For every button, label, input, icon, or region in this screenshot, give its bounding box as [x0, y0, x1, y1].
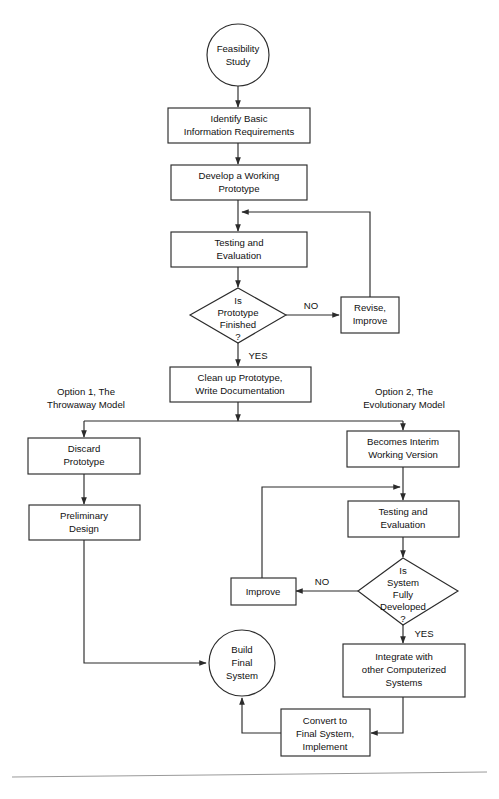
- is-system-fully-developed-label-line2: System: [387, 577, 419, 588]
- discard-prototype-label-line2: Prototype: [63, 456, 104, 467]
- build-final-system-label-line2: Final: [232, 657, 253, 668]
- node-build-final-system[interactable]: Build Final System: [209, 630, 275, 696]
- revise-improve-label-line1: Revise,: [354, 302, 386, 313]
- integrate-label-line3: Systems: [386, 677, 423, 688]
- is-system-fully-developed-label-line5: ?: [400, 613, 405, 624]
- connector-preliminary-to-build: [84, 540, 206, 663]
- flowchart-diagram: Feasibility Study Identify Basic Informa…: [0, 0, 499, 799]
- is-prototype-finished-label-line4: ?: [235, 331, 240, 342]
- node-integrate-with-other-computerized-systems[interactable]: Integrate with other Computerized System…: [343, 644, 465, 697]
- testing-evaluation-2-label-line2: Evaluation: [381, 519, 426, 530]
- develop-prototype-label-line2: Prototype: [218, 183, 259, 194]
- node-improve[interactable]: Improve: [231, 578, 296, 605]
- identify-basic-label-line1: Identify Basic: [210, 113, 267, 124]
- identify-basic-label-line2: Information Requirements: [184, 126, 295, 137]
- edge-label-no-2: NO: [315, 576, 329, 587]
- convert-to-final-label-line1: Convert to: [303, 715, 347, 726]
- clean-up-prototype-label-line2: Write Documentation: [195, 385, 284, 396]
- discard-prototype-label-line1: Discard: [68, 443, 101, 454]
- testing-evaluation-2-label-line1: Testing and: [378, 506, 427, 517]
- node-testing-and-evaluation-2[interactable]: Testing and Evaluation: [348, 501, 459, 537]
- revise-improve-label-line2: Improve: [353, 315, 388, 326]
- node-clean-up-prototype[interactable]: Clean up Prototype, Write Documentation: [170, 367, 311, 402]
- option-2-label-line2: Evolutionary Model: [363, 399, 445, 410]
- build-final-system-label-line1: Build: [231, 644, 252, 655]
- is-prototype-finished-label-line2: Prototype: [217, 307, 258, 318]
- node-decision-is-prototype-finished[interactable]: Is Prototype Finished ?: [190, 288, 286, 343]
- is-prototype-finished-label-line3: Finished: [220, 319, 256, 330]
- option-1-label-line1: Option 1, The: [57, 386, 115, 397]
- becomes-interim-label-line1: Becomes Interim: [367, 436, 439, 447]
- convert-to-final-label-line2: Final System,: [296, 728, 354, 739]
- connector-integrate-to-convert: [371, 697, 403, 733]
- node-becomes-interim-working-version[interactable]: Becomes Interim Working Version: [347, 431, 459, 467]
- node-preliminary-design[interactable]: Preliminary Design: [29, 505, 140, 540]
- node-develop-working-prototype[interactable]: Develop a Working Prototype: [171, 165, 307, 200]
- integrate-label-line2: other Computerized: [362, 664, 446, 675]
- feasibility-study-label-line2: Study: [226, 56, 251, 67]
- page-footer-rule: [12, 772, 487, 777]
- is-system-fully-developed-label-line3: Fully: [393, 589, 413, 600]
- edge-label-yes-2: YES: [414, 628, 433, 639]
- node-convert-to-final-system[interactable]: Convert to Final System, Implement: [281, 709, 370, 756]
- branch-label-option-2: Option 2, The Evolutionary Model: [363, 386, 445, 410]
- node-identify-basic-information-requirements[interactable]: Identify Basic Information Requirements: [168, 108, 310, 143]
- convert-to-final-label-line3: Implement: [303, 741, 348, 752]
- preliminary-design-label-line2: Design: [69, 523, 99, 534]
- build-final-system-label-line3: System: [226, 670, 258, 681]
- testing-evaluation-1-label-line1: Testing and: [214, 237, 263, 248]
- integrate-label-line1: Integrate with: [375, 651, 433, 662]
- edge-label-no-1: NO: [304, 300, 318, 311]
- option-1-label-line2: Throwaway Model: [47, 399, 125, 410]
- becomes-interim-label-line2: Working Version: [368, 449, 438, 460]
- is-system-fully-developed-label-line1: Is: [399, 565, 407, 576]
- node-feasibility-study[interactable]: Feasibility Study: [207, 24, 269, 86]
- option-2-label-line1: Option 2, The: [375, 386, 433, 397]
- testing-evaluation-1-label-line2: Evaluation: [217, 250, 262, 261]
- improve-label: Improve: [246, 586, 281, 597]
- node-decision-is-system-fully-developed[interactable]: Is System Fully Developed ?: [358, 558, 458, 625]
- is-prototype-finished-label-line1: Is: [234, 295, 242, 306]
- is-system-fully-developed-label-line4: Developed: [380, 601, 426, 612]
- preliminary-design-label-line1: Preliminary: [60, 510, 108, 521]
- node-revise-improve[interactable]: Revise, Improve: [341, 297, 399, 333]
- node-testing-and-evaluation-1[interactable]: Testing and Evaluation: [171, 232, 307, 267]
- node-discard-prototype[interactable]: Discard Prototype: [28, 438, 140, 474]
- feasibility-study-label-line1: Feasibility: [217, 43, 260, 54]
- develop-prototype-label-line1: Develop a Working: [199, 170, 280, 181]
- edge-label-yes-1: YES: [248, 350, 267, 361]
- connector-convert-to-build: [242, 698, 282, 733]
- flowchart-canvas: Feasibility Study Identify Basic Informa…: [0, 0, 499, 799]
- clean-up-prototype-label-line1: Clean up Prototype,: [198, 372, 283, 383]
- branch-label-option-1: Option 1, The Throwaway Model: [47, 386, 125, 410]
